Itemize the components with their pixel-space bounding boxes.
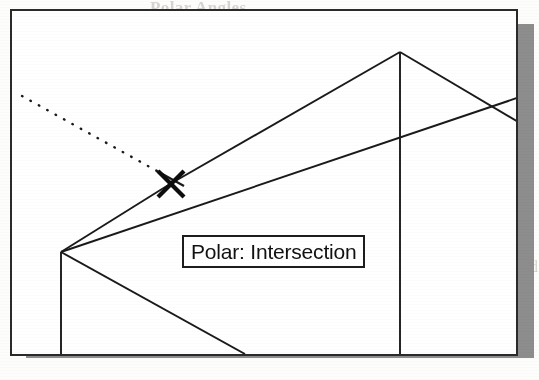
tooltip-label: Polar: Intersection	[191, 241, 356, 262]
wireframe-model	[61, 52, 516, 354]
polar-tracking-line	[22, 96, 157, 171]
cad-wireframe-canvas[interactable]	[12, 11, 516, 354]
cad-drawing-viewport[interactable]: Polar: Intersection	[10, 9, 518, 356]
polar-intersection-tooltip: Polar: Intersection	[182, 235, 365, 268]
